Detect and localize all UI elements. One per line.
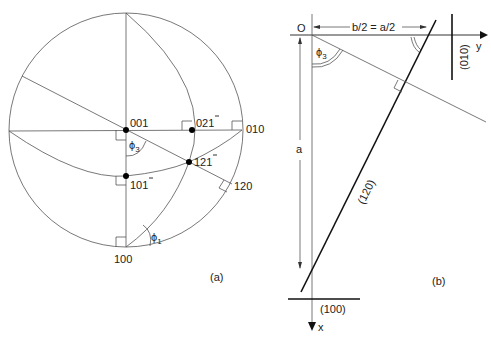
x-axis-arrow-icon <box>308 322 316 331</box>
y-axis-arrow-icon <box>480 31 488 39</box>
right-angle-mark-010 <box>232 121 242 130</box>
label-021: 021 <box>196 117 214 129</box>
pole-dot-021 <box>189 127 195 133</box>
plane-120-label: (120) <box>355 178 377 206</box>
label-120: 120 <box>234 180 252 192</box>
caption-a: (a) <box>210 271 223 283</box>
label-100: 100 <box>114 253 132 265</box>
stereographic-diagram: 001 021 010 121 101 120 100 ϕ3 ϕ1 (a) y … <box>0 0 491 337</box>
label-121: 121 <box>194 156 212 168</box>
x-axis-label: x <box>318 321 324 333</box>
pole-dot-001 <box>123 127 129 133</box>
panel-b-real-space: y x O a b/2 = a/2 (120) ϕ3 ( <box>288 14 488 333</box>
great-circle-101-121 <box>9 130 242 176</box>
label-101: 101 <box>130 179 148 191</box>
angle-arc-2 <box>411 37 419 52</box>
dim-a-label: a <box>296 143 303 155</box>
plane-100-label: (100) <box>320 303 346 315</box>
pole-dot-101 <box>123 173 129 179</box>
pole-dot-121 <box>186 159 192 165</box>
origin-label: O <box>297 22 306 34</box>
label-001: 001 <box>130 117 148 129</box>
dim-a-arrow-up-icon <box>298 37 302 44</box>
label-010: 010 <box>246 123 264 135</box>
label-phi3: ϕ3 <box>129 139 140 154</box>
phi1-arc <box>143 225 151 246</box>
right-angle-mark-120 <box>219 180 227 192</box>
phi3-label: ϕ3 <box>316 46 327 61</box>
dim-b-arrow-left-icon <box>313 25 320 29</box>
plane-010-label: (010) <box>458 44 470 70</box>
dim-a-arrow-down-icon <box>298 262 302 269</box>
dim-b-arrow-right-icon <box>420 25 427 29</box>
panel-a-stereogram: 001 021 010 121 101 120 100 ϕ3 ϕ1 (a) <box>9 13 264 283</box>
dim-b-label: b/2 = a/2 <box>352 21 395 33</box>
caption-b: (b) <box>432 275 445 287</box>
right-angle-mark-100 <box>116 237 126 247</box>
y-axis-label: y <box>476 40 482 52</box>
